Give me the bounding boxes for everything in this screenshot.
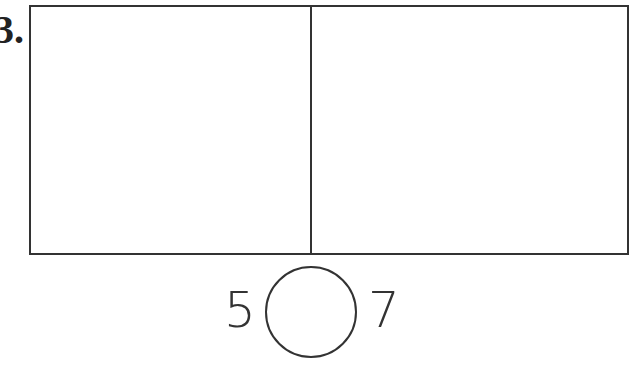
box-divider [310,5,312,255]
left-number: 5 [224,285,256,335]
drawing-box [29,5,629,255]
problem-number: 3. [0,10,24,50]
right-number: 7 [368,285,400,335]
comparison-circle[interactable] [265,266,357,358]
